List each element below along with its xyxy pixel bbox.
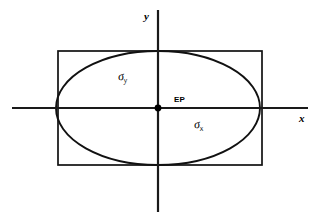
sigma-x-label: σx (193, 117, 204, 130)
x-axis-label: x (299, 113, 305, 124)
figure-canvas (0, 0, 320, 219)
origin-point-dot (155, 105, 162, 112)
sigma-x-subscript: x (199, 123, 204, 132)
sigma-y-label: σy (117, 69, 128, 82)
y-axis-label: y (144, 11, 149, 22)
error-point-label: EP (174, 96, 185, 104)
sigma-y-subscript: y (123, 75, 128, 84)
error-ellipse-figure: y x σy σx EP (0, 0, 320, 219)
